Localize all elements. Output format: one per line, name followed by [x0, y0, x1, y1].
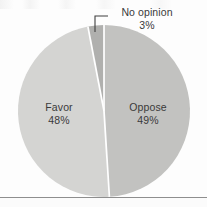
- pie-label-no-opinion-name: No opinion: [110, 6, 184, 19]
- pie-label-no-opinion: No opinion 3%: [110, 6, 184, 31]
- pie-label-favor: Favor 48%: [32, 101, 86, 126]
- pie-label-favor-percent: 48%: [32, 114, 86, 127]
- pie-label-oppose-name: Oppose: [119, 101, 177, 114]
- bottom-margin-band: [0, 198, 207, 207]
- pie-label-no-opinion-percent: 3%: [110, 19, 184, 32]
- pie-chart-figure: Favor 48% Oppose 49% No opinion 3%: [0, 0, 207, 207]
- pie-label-oppose: Oppose 49%: [119, 101, 177, 126]
- pie-label-oppose-percent: 49%: [119, 114, 177, 127]
- pie-label-favor-name: Favor: [32, 101, 86, 114]
